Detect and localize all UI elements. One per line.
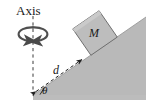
distance-label: d [53, 64, 59, 76]
axis-label: Axis [16, 4, 41, 17]
physics-diagram: Axis M d θ [0, 0, 155, 108]
mass-label: M [89, 27, 99, 39]
angle-label: θ [42, 85, 47, 96]
